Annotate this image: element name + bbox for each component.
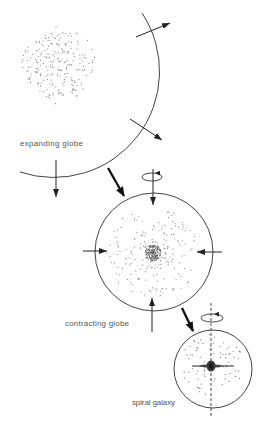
star-dot	[130, 282, 131, 283]
star-dot	[122, 268, 123, 269]
star-dot	[32, 54, 33, 55]
star-dot	[60, 93, 61, 94]
star-dot	[183, 226, 184, 227]
star-dot	[159, 253, 160, 254]
star-dot	[167, 212, 168, 213]
star-dot	[126, 249, 127, 250]
star-dot	[175, 223, 176, 224]
star-dot	[58, 93, 59, 94]
star-dot	[152, 245, 153, 246]
star-dot	[117, 267, 118, 268]
star-dot	[197, 370, 198, 371]
star-dot	[30, 58, 31, 59]
star-dot	[150, 253, 151, 254]
star-dot	[152, 261, 153, 262]
star-dot	[168, 264, 169, 265]
star-dot	[238, 371, 239, 372]
star-dot	[47, 56, 48, 57]
star-dot	[160, 249, 161, 250]
star-dot	[43, 63, 44, 64]
star-dot	[72, 80, 73, 81]
star-dot	[145, 280, 146, 281]
rotation-icon	[201, 312, 223, 322]
expansion-arrow-middle	[130, 119, 162, 140]
star-dot	[49, 54, 50, 55]
star-dot	[143, 231, 144, 232]
star-dot	[196, 373, 197, 374]
star-dot	[46, 66, 47, 67]
star-dot	[167, 246, 168, 247]
star-dot	[163, 239, 164, 240]
star-dot	[131, 291, 132, 292]
star-dot	[64, 73, 65, 74]
star-dot	[155, 288, 156, 289]
star-dot	[160, 251, 161, 252]
star-dot	[156, 258, 157, 259]
star-dot	[27, 60, 28, 61]
star-dot	[44, 50, 45, 51]
star-dot	[59, 44, 60, 45]
star-dot	[179, 244, 180, 245]
star-dot	[55, 86, 56, 87]
star-dot	[60, 75, 61, 76]
star-dot	[166, 235, 167, 236]
star-dot	[192, 368, 193, 369]
star-dot	[67, 65, 68, 66]
star-dot	[65, 73, 66, 74]
star-dot	[70, 64, 71, 65]
star-dot	[129, 264, 130, 265]
star-dot	[225, 357, 226, 358]
star-dot	[46, 53, 47, 54]
star-dot	[157, 242, 158, 243]
star-dot	[179, 262, 180, 263]
star-dot	[58, 90, 59, 91]
star-dot	[65, 45, 66, 46]
star-dot	[48, 37, 49, 38]
star-dot	[175, 226, 176, 227]
star-dot	[185, 349, 186, 350]
star-dot	[140, 243, 141, 244]
star-dot	[181, 256, 182, 257]
star-dot	[145, 243, 146, 244]
star-dot	[36, 68, 37, 69]
star-dot	[213, 353, 214, 354]
star-dot	[72, 89, 73, 90]
star-dot	[67, 73, 68, 74]
star-dot	[71, 92, 72, 93]
star-dot	[37, 62, 38, 63]
transition-arrow-expanding-to-contracting	[108, 168, 124, 196]
star-dot	[116, 243, 117, 244]
star-dot	[65, 43, 66, 44]
star-dot	[164, 232, 165, 233]
star-dot	[151, 258, 152, 259]
star-dot	[152, 239, 153, 240]
star-dot	[152, 242, 153, 243]
rotation-icon	[142, 171, 162, 181]
contracting-globe-label: contracting globe	[65, 319, 130, 328]
star-dot	[152, 287, 153, 288]
star-dot	[154, 251, 155, 252]
star-dot	[151, 249, 152, 250]
star-dot	[229, 346, 230, 347]
star-dot	[39, 48, 40, 49]
star-dot	[155, 258, 156, 259]
star-dot	[209, 349, 210, 350]
star-dot	[40, 65, 41, 66]
star-dot	[47, 40, 48, 41]
star-dot	[150, 252, 151, 253]
star-dot	[149, 245, 150, 246]
star-dot	[68, 51, 69, 52]
star-dot	[58, 92, 59, 93]
star-dot	[142, 260, 143, 261]
star-dot	[61, 69, 62, 70]
star-dot	[48, 45, 49, 46]
star-dot	[145, 247, 146, 248]
star-dot	[82, 69, 83, 70]
star-dot	[72, 60, 73, 61]
star-dot	[111, 262, 112, 263]
star-dot	[46, 57, 47, 58]
star-dot	[40, 85, 41, 86]
star-dot	[204, 374, 205, 375]
star-dot	[229, 373, 230, 374]
star-dot	[125, 263, 126, 264]
